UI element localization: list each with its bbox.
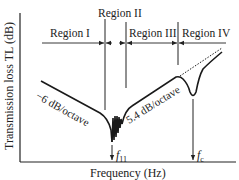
slope-right-label: 5.4 dB/octave <box>124 83 182 126</box>
region-ii-label: Region II <box>98 7 142 20</box>
y-axis-label: Transmission loss TL (dB) <box>2 22 16 150</box>
region-iv-label: Region IV <box>182 27 231 40</box>
fc-marker: fc <box>193 99 204 164</box>
f11-label: f11 <box>116 148 127 164</box>
region-iii-label: Region III <box>129 27 177 40</box>
transmission-loss-diagram: Transmission loss TL (dB) Frequency (Hz)… <box>0 0 239 180</box>
f11-marker: f11 <box>112 145 127 164</box>
fc-label: fc <box>197 148 204 164</box>
region-i-label: Region I <box>50 27 90 40</box>
slope-left-label: −6 dB/octave <box>34 89 92 128</box>
x-axis-label: Frequency (Hz) <box>90 166 166 180</box>
